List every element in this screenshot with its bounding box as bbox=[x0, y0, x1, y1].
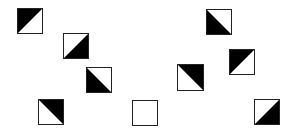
black-triangle-icon bbox=[18, 9, 42, 33]
black-triangle-icon bbox=[87, 68, 111, 92]
tile-8-top-right bbox=[177, 64, 204, 91]
tile-1-top-left bbox=[17, 8, 43, 34]
black-triangle-icon bbox=[255, 100, 279, 124]
tile-6-bottom-left bbox=[206, 9, 232, 35]
black-triangle-icon bbox=[64, 34, 88, 58]
tile-7-top-left bbox=[229, 49, 255, 75]
tile-5-empty bbox=[132, 100, 158, 126]
black-triangle-icon bbox=[230, 50, 254, 74]
tile-9-bottom-right bbox=[254, 99, 280, 125]
black-triangle-icon bbox=[178, 65, 203, 90]
tile-3-bottom-left bbox=[86, 67, 112, 93]
black-triangle-icon bbox=[207, 10, 231, 34]
tile-4-top-right bbox=[38, 99, 64, 125]
tile-2-bottom-right bbox=[63, 33, 89, 59]
black-triangle-icon bbox=[39, 100, 63, 124]
